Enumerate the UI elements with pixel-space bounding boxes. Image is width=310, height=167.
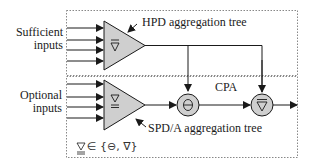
- spd-tree-label: SPD/A aggregation tree: [148, 122, 262, 135]
- cpa-nabla-node: [251, 94, 273, 116]
- cpa-minus-node: [177, 94, 199, 116]
- optional-input-arrows: [67, 84, 103, 118]
- operator-legend: ∇ ∈ {⊖, ∇}: [76, 140, 138, 153]
- spd-label-pointer: [136, 119, 146, 127]
- sufficient-input-arrows: [67, 28, 103, 61]
- optional-inputs-label: Optional inputs: [20, 89, 62, 115]
- hpd-output-lines: [145, 46, 262, 93]
- sufficient-inputs-label: Sufficient inputs: [16, 26, 63, 52]
- cpa-label: CPA: [215, 81, 237, 94]
- hpd-label-pointer: [128, 24, 137, 32]
- hpd-tree-label: HPD aggregation tree: [142, 16, 247, 29]
- spd-aggregation-node: [104, 80, 145, 130]
- hpd-aggregation-node: [104, 21, 145, 70]
